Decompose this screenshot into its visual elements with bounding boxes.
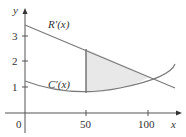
y-tick-label-3: 3	[12, 30, 18, 42]
y-axis-arrow-icon	[23, 8, 28, 14]
c-prime-label: C′(x)	[48, 78, 70, 91]
y-axis-label: y	[12, 4, 18, 16]
x-axis-label: x	[170, 118, 176, 130]
chart: y x 0 50 100 1 2 3 R′(x) C′(x)	[0, 0, 186, 137]
x-axis-arrow-icon	[176, 111, 182, 116]
y-tick-label-1: 1	[12, 81, 18, 93]
x-tick-label-50: 50	[80, 118, 92, 130]
x-tick-label-100: 100	[138, 118, 155, 130]
shaded-region	[86, 49, 150, 93]
y-tick-label-2: 2	[12, 55, 18, 67]
r-prime-label: R′(x)	[47, 18, 70, 31]
origin-label: 0	[16, 118, 22, 130]
